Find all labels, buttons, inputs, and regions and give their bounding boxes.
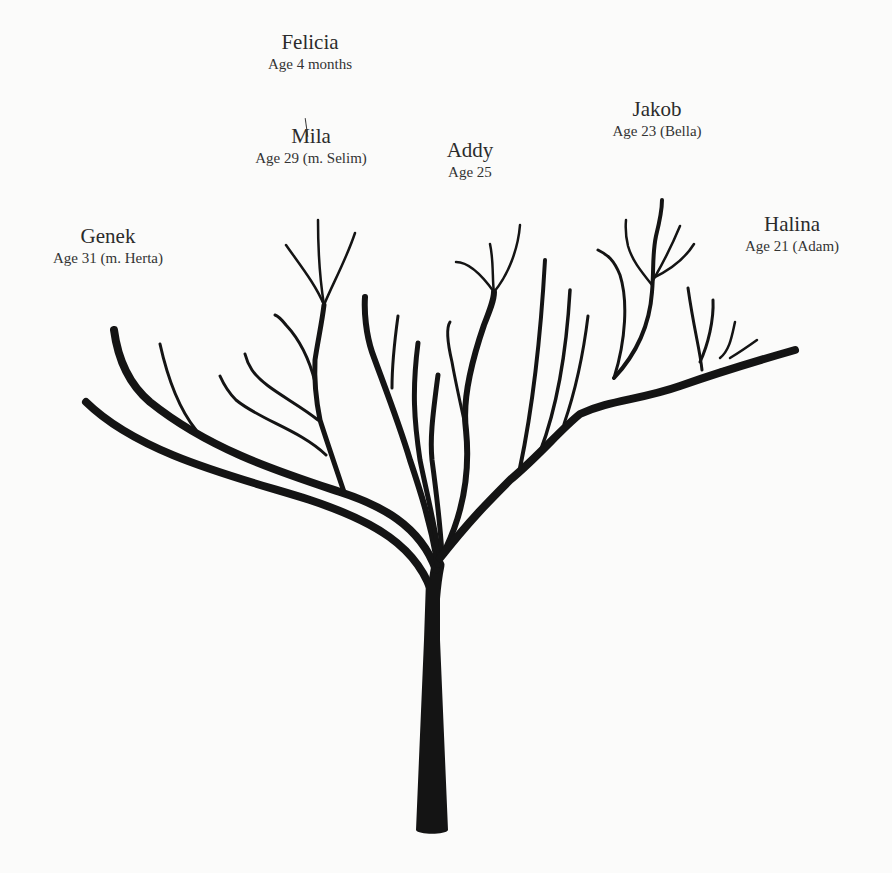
person-label-halina: Halina Age 21 (Adam): [745, 212, 839, 256]
person-name: Genek: [53, 224, 163, 248]
branch-halina: [720, 322, 735, 358]
branch-mila: [324, 233, 355, 305]
tree-trunk: [416, 580, 448, 834]
person-label-felicia: Felicia Age 4 months: [268, 30, 352, 74]
person-name: Addy: [447, 138, 494, 162]
person-age: Age 4 months: [268, 54, 352, 74]
branch-right-main: [440, 350, 795, 558]
person-label-addy: Addy Age 25: [447, 138, 494, 182]
branch-jakob: [653, 244, 694, 278]
person-name: Halina: [745, 212, 839, 236]
person-age: Age 31 (m. Herta): [53, 248, 163, 268]
branch-jakob: [626, 220, 652, 285]
person-age: Age 21 (Adam): [745, 236, 839, 256]
branch-genek: [86, 402, 434, 600]
person-age: Age 23 (Bella): [612, 121, 701, 141]
branch-addy: [456, 262, 494, 292]
tree-branches: [86, 200, 795, 640]
person-label-jakob: Jakob Age 23 (Bella): [612, 97, 701, 141]
branch-mila: [315, 305, 344, 492]
branch-mila: [275, 315, 315, 382]
branch-center: [392, 316, 398, 388]
branch-addy: [490, 244, 494, 292]
branch-center-right: [520, 260, 545, 468]
branch-halina: [730, 340, 757, 358]
branch-halina: [700, 300, 713, 362]
person-name: Felicia: [268, 30, 352, 54]
person-age: Age 29 (m. Selim): [255, 148, 367, 168]
person-age: Age 25: [447, 162, 494, 182]
person-label-mila: Mila Age 29 (m. Selim): [255, 124, 367, 168]
branch-mila: [245, 354, 318, 420]
branch-halina: [688, 288, 702, 370]
family-tree-diagram: [0, 0, 892, 873]
person-name: Jakob: [612, 97, 701, 121]
branch-jakob: [598, 250, 625, 378]
person-name: Mila: [255, 124, 367, 148]
branch-addy: [448, 322, 466, 430]
person-label-genek: Genek Age 31 (m. Herta): [53, 224, 163, 268]
branch-addy: [494, 225, 520, 292]
branch-addy: [446, 292, 494, 548]
